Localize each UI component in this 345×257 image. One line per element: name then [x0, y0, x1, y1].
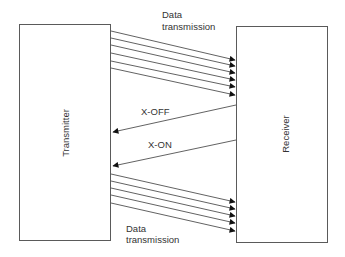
x-off-signal: X-OFF — [113, 105, 236, 132]
transmitter-node: Transmitter — [20, 25, 111, 241]
data-arrow — [111, 195, 235, 223]
data-arrow — [111, 38, 235, 66]
x-on-label: X-ON — [148, 139, 172, 150]
data-transmission-label-bottom-line2: transmission — [126, 234, 179, 245]
data-arrow — [111, 174, 235, 202]
x-off-arrow — [113, 105, 236, 132]
x-on-arrow — [113, 140, 236, 166]
data-arrow — [111, 188, 235, 216]
data-transmission-label-top-line2: transmission — [162, 21, 215, 32]
data-transmission-label-bottom-line1: Data — [126, 223, 147, 234]
data-arrow — [111, 61, 235, 87]
flow-control-diagram: Transmitter Receiver Data transmission X… — [0, 0, 345, 257]
receiver-node: Receiver — [237, 27, 328, 243]
x-off-label: X-OFF — [141, 106, 170, 117]
data-arrow — [111, 45, 235, 73]
receiver-label: Receiver — [280, 115, 291, 153]
transmitter-label: Transmitter — [60, 109, 71, 157]
data-transmission-arrows-top — [111, 31, 235, 95]
data-transmission-label-top-line1: Data — [162, 9, 183, 20]
data-arrow — [111, 68, 235, 95]
data-arrow — [111, 53, 235, 80]
x-on-signal: X-ON — [113, 139, 236, 166]
data-arrow — [111, 31, 235, 60]
data-arrow — [111, 181, 235, 209]
